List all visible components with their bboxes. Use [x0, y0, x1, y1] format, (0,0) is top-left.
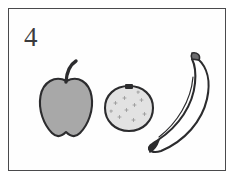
banana-body: [149, 57, 209, 152]
apple-icon: [33, 53, 99, 141]
apple-body: [40, 79, 92, 136]
banana-crown-stem: [191, 53, 199, 60]
illustration-card-canvas: 4: [0, 0, 235, 180]
orange-navel: [125, 84, 133, 89]
card-number-label: 4: [24, 20, 54, 54]
card-frame: 4: [8, 8, 226, 171]
banana-icon: [141, 47, 225, 163]
